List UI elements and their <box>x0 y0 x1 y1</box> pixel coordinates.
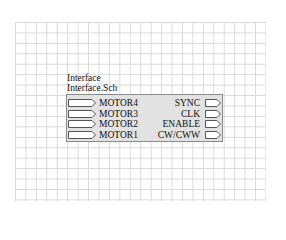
port-label: CLK <box>181 109 200 120</box>
sheet-filename: Interface.Sch <box>67 83 117 94</box>
output-port-icon <box>205 110 221 118</box>
port-label: SYNC <box>175 98 200 109</box>
output-port-icon <box>205 99 221 107</box>
output-port-icon <box>205 131 221 139</box>
sheet-symbol[interactable]: MOTOR4 MOTOR3 MOTOR2 MOTOR1 SYNC CLK ENA… <box>66 94 223 142</box>
output-port-icon <box>205 120 221 128</box>
port-enable[interactable]: ENABLE <box>147 119 222 130</box>
port-label: CW/CWW <box>158 130 200 141</box>
port-motor3[interactable]: MOTOR3 <box>67 109 147 120</box>
port-clk[interactable]: CLK <box>147 109 222 120</box>
input-port-icon <box>68 99 96 107</box>
input-port-icon <box>68 120 96 128</box>
port-label: ENABLE <box>163 119 200 130</box>
port-motor1[interactable]: MOTOR1 <box>67 130 147 141</box>
port-label: MOTOR3 <box>99 109 138 120</box>
port-sync[interactable]: SYNC <box>147 98 222 109</box>
port-motor4[interactable]: MOTOR4 <box>67 98 147 109</box>
port-motor2[interactable]: MOTOR2 <box>67 119 147 130</box>
port-label: MOTOR2 <box>99 119 138 130</box>
port-cw-cww[interactable]: CW/CWW <box>147 130 222 141</box>
input-port-icon <box>68 110 96 118</box>
input-port-icon <box>68 131 96 139</box>
port-label: MOTOR4 <box>99 98 138 109</box>
port-label: MOTOR1 <box>99 130 138 141</box>
